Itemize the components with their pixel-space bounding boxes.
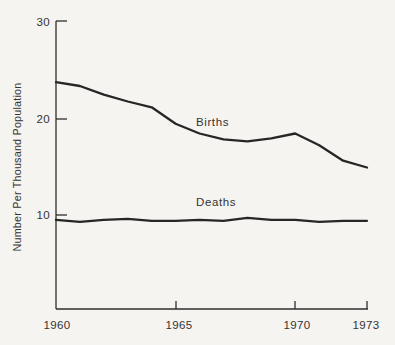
deaths-line — [56, 218, 367, 222]
deaths-series-label: Deaths — [196, 196, 236, 208]
x-tick-label-1973: 1973 — [353, 319, 380, 331]
chart-figure: Number Per Thousand Population 30 20 10 … — [0, 0, 395, 345]
x-tick-label-1960: 1960 — [44, 319, 71, 331]
y-axis: 30 20 10 — [37, 16, 67, 309]
y-tick-label-20: 20 — [37, 113, 50, 125]
x-axis: 1960 1965 1970 1973 — [44, 301, 380, 331]
series-lines: Births Deaths — [56, 82, 367, 222]
y-axis-title: Number Per Thousand Population — [11, 82, 23, 251]
chart-svg: Number Per Thousand Population 30 20 10 … — [0, 0, 395, 345]
x-tick-label-1965: 1965 — [166, 319, 193, 331]
births-series-label: Births — [196, 116, 229, 128]
y-tick-label-10: 10 — [37, 209, 50, 221]
x-tick-label-1970: 1970 — [284, 319, 311, 331]
y-tick-label-30: 30 — [37, 16, 50, 28]
